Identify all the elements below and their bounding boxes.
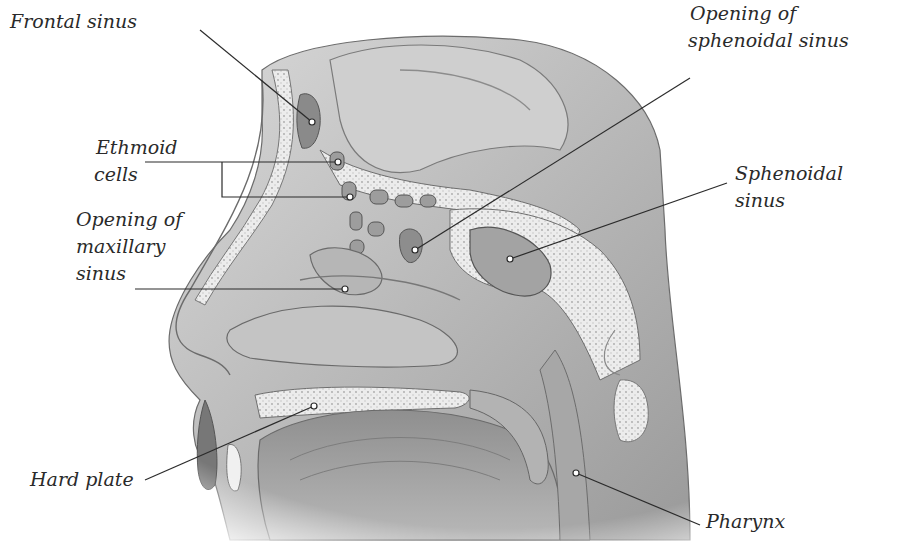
ethmoid-pointer-dot-1 <box>335 159 341 165</box>
hard-plate-pointer-dot <box>311 403 317 409</box>
frontal-sinus-pointer-dot <box>309 119 315 125</box>
label-text: sinus <box>735 187 843 214</box>
label-text: Pharynx <box>706 508 785 535</box>
label-text: Frontal sinus <box>10 8 137 35</box>
label-text: cells <box>94 161 177 188</box>
label-text: maxillary <box>76 233 182 260</box>
label-opening-of-sphenoidal-sinus: Opening of sphenoidal sinus <box>690 0 849 54</box>
label-sphenoidal-sinus: Sphenoidal sinus <box>735 160 843 214</box>
label-text: Ethmoid <box>96 134 177 161</box>
maxillary-opening-pointer-dot <box>342 286 348 292</box>
pharynx-pointer-dot <box>573 470 579 476</box>
label-opening-of-maxillary-sinus: Opening of maxillary sinus <box>76 206 182 287</box>
ethmoid-pointer-dot-2 <box>347 194 353 200</box>
label-pharynx: Pharynx <box>706 508 785 535</box>
label-text: sinus <box>76 260 182 287</box>
label-frontal-sinus: Frontal sinus <box>10 8 137 35</box>
label-ethmoid-cells: Ethmoid cells <box>96 134 177 188</box>
sphenoidal-sinus-pointer-dot <box>507 256 513 262</box>
label-text: Opening of <box>690 0 849 27</box>
head-section-illustration <box>169 36 690 540</box>
label-text: Opening of <box>76 206 182 233</box>
label-text: Sphenoidal <box>735 160 843 187</box>
label-text: Hard plate <box>30 466 134 493</box>
label-text: sphenoidal sinus <box>688 27 849 54</box>
label-hard-plate: Hard plate <box>30 466 134 493</box>
anatomy-diagram: Frontal sinus Ethmoid cells Opening of m… <box>0 0 897 559</box>
sphenoidal-opening-pointer-dot <box>412 247 418 253</box>
